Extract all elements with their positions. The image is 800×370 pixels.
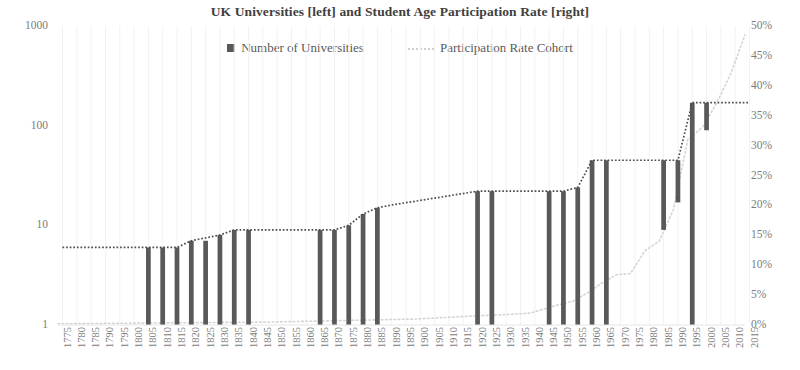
x-axis-tick: 1785 (91, 327, 102, 348)
y-axis-right-tick: 40% (751, 80, 772, 92)
y-axis-left: 1101001000 (0, 26, 52, 325)
bar-universities (475, 191, 480, 325)
y-axis-right-tick: 15% (751, 230, 772, 242)
x-axis-tick: 1925 (492, 327, 503, 348)
x-axis-tick: 1790 (105, 327, 116, 348)
x-axis-tick: 1995 (692, 327, 703, 348)
bar-universities (361, 214, 366, 325)
plot-area (58, 26, 745, 325)
bar-universities (375, 208, 380, 325)
bar-universities (232, 230, 237, 325)
y-axis-right: 0%5%10%15%20%25%30%35%40%45%50% (748, 26, 796, 325)
x-axis-tick: 1820 (191, 327, 202, 348)
x-axis-tick: 1840 (249, 327, 260, 348)
bar-universities (704, 103, 709, 131)
x-axis-tick: 1870 (334, 327, 345, 348)
plot-svg (58, 26, 745, 325)
y-axis-right-tick: 35% (751, 110, 772, 122)
x-axis-tick: 1960 (592, 327, 603, 348)
bar-universities (676, 160, 681, 202)
x-axis-tick: 1875 (349, 327, 360, 348)
x-axis-tick: 1970 (621, 327, 632, 348)
x-axis-tick: 1935 (521, 327, 532, 348)
bar-universities (561, 191, 566, 325)
x-axis-tick: 1800 (134, 327, 145, 348)
x-axis-tick: 1890 (392, 327, 403, 348)
bar-universities (203, 241, 208, 325)
x-axis-tick: 1825 (206, 327, 217, 348)
x-axis-tick: 1980 (649, 327, 660, 348)
x-axis-tick: 1930 (506, 327, 517, 348)
y-axis-left-tick: 100 (31, 120, 48, 132)
x-axis-tick: 1855 (292, 327, 303, 348)
bar-universities (175, 247, 180, 325)
x-axis-tick: 1865 (320, 327, 331, 348)
bar-universities (332, 230, 337, 325)
bar-universities (661, 160, 666, 230)
x-axis-tick: 1795 (120, 327, 131, 348)
x-axis-tick: 1945 (549, 327, 560, 348)
x-axis-tick: 1985 (664, 327, 675, 348)
y-axis-left-tick: 10 (37, 220, 49, 232)
x-axis-tick: 1810 (163, 327, 174, 348)
chart-container: UK Universities [left] and Student Age P… (0, 0, 800, 370)
x-axis-tick: 1905 (435, 327, 446, 348)
bar-universities (604, 160, 609, 325)
bar-universities (160, 247, 165, 325)
x-axis-tick: 1850 (277, 327, 288, 348)
bar-universities (575, 187, 580, 325)
x-axis-tick: 1780 (77, 327, 88, 348)
y-axis-right-tick: 50% (751, 20, 772, 32)
y-axis-left-tick: 1000 (25, 20, 48, 32)
y-axis-right-tick: 45% (751, 50, 772, 62)
x-axis-tick: 2015 (750, 327, 761, 348)
y-axis-right-tick: 10% (751, 259, 772, 271)
chart-title: UK Universities [left] and Student Age P… (0, 4, 800, 20)
x-axis-tick: 1950 (563, 327, 574, 348)
x-axis-tick: 2005 (721, 327, 732, 348)
x-axis: 1775178017851790179518001805181018151820… (58, 325, 745, 370)
x-axis-tick: 1955 (578, 327, 589, 348)
bar-universities (547, 191, 552, 325)
y-axis-right-tick: 20% (751, 200, 772, 212)
x-axis-tick: 1910 (449, 327, 460, 348)
x-axis-tick: 1975 (635, 327, 646, 348)
x-axis-tick: 1805 (148, 327, 159, 348)
bar-universities (490, 191, 495, 325)
x-axis-tick: 1940 (535, 327, 546, 348)
x-axis-tick: 1815 (177, 327, 188, 348)
x-axis-tick: 1915 (463, 327, 474, 348)
y-axis-right-tick: 5% (751, 289, 766, 301)
x-axis-tick: 1830 (220, 327, 231, 348)
x-axis-tick: 1775 (63, 327, 74, 348)
x-axis-tick: 1920 (478, 327, 489, 348)
x-axis-tick: 1880 (363, 327, 374, 348)
bar-universities (189, 241, 194, 325)
x-axis-tick: 1860 (306, 327, 317, 348)
y-axis-right-tick: 25% (751, 170, 772, 182)
bar-universities (146, 247, 151, 325)
x-axis-tick: 1990 (678, 327, 689, 348)
bar-universities (318, 230, 323, 325)
x-axis-tick: 1885 (377, 327, 388, 348)
y-axis-right-tick: 30% (751, 140, 772, 152)
x-axis-tick: 1895 (406, 327, 417, 348)
x-axis-tick: 2000 (707, 327, 718, 348)
x-axis-tick: 1845 (263, 327, 274, 348)
y-axis-left-tick: 1 (42, 319, 48, 331)
bar-universities (218, 235, 223, 325)
bar-universities (690, 103, 695, 325)
x-axis-tick: 2010 (735, 327, 746, 348)
bar-universities (246, 230, 251, 325)
x-axis-tick: 1965 (606, 327, 617, 348)
x-axis-tick: 1835 (234, 327, 245, 348)
bar-universities (346, 225, 351, 325)
x-axis-tick: 1900 (420, 327, 431, 348)
bar-universities (590, 160, 595, 325)
